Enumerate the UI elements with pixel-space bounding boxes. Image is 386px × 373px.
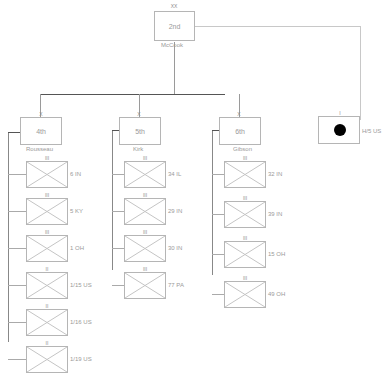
infantry-x-icon [225, 202, 265, 227]
division-stem [174, 42, 175, 95]
infantry-x-icon [27, 199, 67, 224]
unit-connector [112, 248, 124, 249]
unit-name: 5 KY [70, 208, 83, 214]
infantry-x-icon [27, 273, 67, 298]
unit-box[interactable] [224, 201, 266, 228]
attached-connector-v [360, 26, 361, 120]
brigade-5th-commander: Kirk [133, 146, 143, 152]
infantry-x-icon [225, 162, 265, 187]
brigade-4th-tick [8, 132, 20, 133]
unit-connector [8, 359, 26, 360]
unit-connector [212, 294, 224, 295]
unit-name: 1/19 US [70, 356, 92, 362]
unit-name: 34 IL [168, 171, 181, 177]
unit-name: 32 IN [268, 171, 282, 177]
unit-box[interactable] [124, 161, 166, 188]
unit-box[interactable] [224, 241, 266, 268]
brigade-4th[interactable]: 4th [20, 117, 62, 145]
unit-box[interactable] [26, 235, 68, 262]
infantry-x-icon [125, 162, 165, 187]
unit-name: 6 IN [70, 171, 81, 177]
brigade-6th-tick [212, 130, 219, 131]
attached-connector-h [192, 26, 360, 27]
infantry-x-icon [27, 310, 67, 335]
unit-name: 49 OH [268, 291, 285, 297]
unit-connector [8, 285, 26, 286]
brigade-4th-name: 4th [21, 128, 61, 135]
unit-name: 29 IN [168, 208, 182, 214]
unit-box[interactable] [224, 281, 266, 308]
unit-connector [112, 211, 124, 212]
unit-connector [8, 322, 26, 323]
brigade-5th-spine [112, 130, 113, 270]
attached-battery-h5us[interactable] [318, 116, 360, 144]
unit-connector [212, 214, 224, 215]
brigade-4th-spine [8, 132, 9, 342]
attached-name: H/5 US [362, 128, 381, 134]
infantry-x-icon [125, 199, 165, 224]
division-commander: McCook [161, 42, 183, 48]
infantry-x-icon [27, 162, 67, 187]
infantry-x-icon [27, 236, 67, 261]
brigade-bus [40, 94, 225, 95]
infantry-x-icon [125, 236, 165, 261]
brigade-5th-name: 5th [120, 128, 160, 135]
brigade-4th-commander: Rousseau [26, 146, 53, 152]
unit-connector [112, 174, 124, 175]
unit-box[interactable] [26, 198, 68, 225]
infantry-x-icon [225, 242, 265, 267]
unit-name: 30 IN [168, 245, 182, 251]
unit-box[interactable] [124, 198, 166, 225]
unit-box[interactable] [26, 272, 68, 299]
brigade-6th[interactable]: 6th [219, 117, 261, 145]
unit-name: 1/15 US [70, 282, 92, 288]
division-echelon: XX [159, 3, 189, 9]
filled-circle-icon [334, 124, 346, 136]
brigade-6th-name: 6th [220, 128, 260, 135]
unit-box[interactable] [26, 346, 68, 373]
unit-box[interactable] [124, 235, 166, 262]
unit-connector [212, 254, 224, 255]
unit-name: 1/16 US [70, 319, 92, 325]
infantry-x-icon [27, 347, 67, 372]
unit-connector [8, 174, 26, 175]
unit-connector [112, 285, 124, 286]
unit-name: 39 IN [268, 211, 282, 217]
infantry-x-icon [125, 273, 165, 298]
division-name: 2nd [155, 23, 194, 30]
brigade-5th-tick [112, 130, 119, 131]
division-2nd[interactable]: 2nd [154, 11, 195, 41]
unit-name: 77 PA [168, 282, 184, 288]
unit-connector [8, 248, 26, 249]
unit-connector [8, 211, 26, 212]
unit-connector [212, 174, 224, 175]
unit-box[interactable] [224, 161, 266, 188]
infantry-x-icon [225, 282, 265, 307]
brigade-6th-commander: Gibson [233, 146, 252, 152]
unit-name: 1 OH [70, 245, 84, 251]
brigade-5th[interactable]: 5th [119, 117, 161, 145]
unit-box[interactable] [124, 272, 166, 299]
unit-name: 15 OH [268, 251, 285, 257]
unit-box[interactable] [26, 161, 68, 188]
unit-box[interactable] [26, 309, 68, 336]
